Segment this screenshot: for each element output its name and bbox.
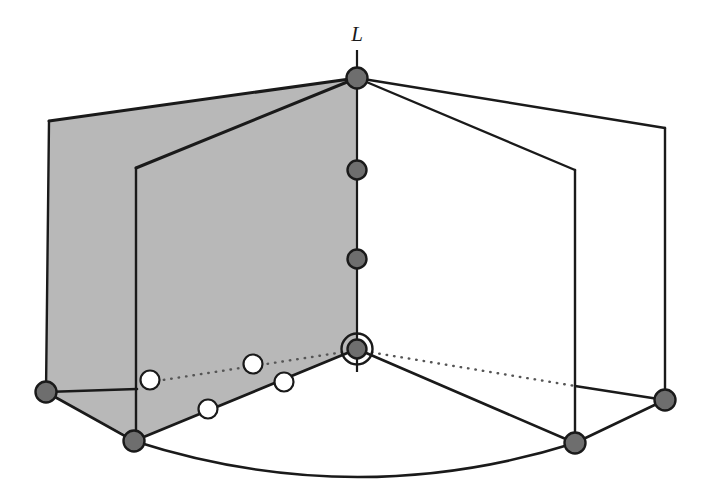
open-node-4 <box>199 400 218 419</box>
open-node-3 <box>275 373 294 392</box>
geometry-diagram: L <box>0 0 710 504</box>
node-outer-left-base <box>36 382 57 403</box>
node-line-upper-mid <box>348 161 367 180</box>
node-outer-right-base <box>655 390 676 411</box>
node-inner-right-base <box>565 433 586 454</box>
node-line-lower-mid <box>348 250 367 269</box>
node-line-top <box>347 68 368 89</box>
open-node-2 <box>244 355 263 374</box>
open-node-1 <box>141 371 160 390</box>
node-origin <box>348 340 367 359</box>
node-inner-left-base <box>124 431 145 452</box>
axis-label-L: L <box>350 22 363 46</box>
labels-group: L <box>350 22 363 46</box>
figure-root: L <box>0 0 710 504</box>
